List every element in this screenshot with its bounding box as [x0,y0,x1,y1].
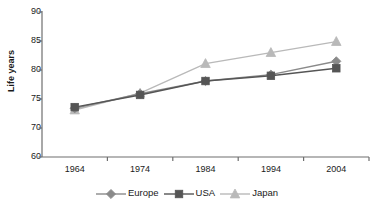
chart-legend: EuropeUSAJapan [0,183,375,201]
x-axis-tick-label: 1984 [174,164,238,174]
diamond-marker-icon [96,186,126,198]
square-marker-icon [164,186,194,198]
x-axis-tick-label: 1994 [239,164,303,174]
legend-label: USA [194,187,217,198]
life-expectancy-line-chart: Life years 908580757060 1964197419841994… [0,0,375,206]
x-axis-tick-label: 2004 [304,164,368,174]
series-line [75,68,337,107]
square-marker-icon [333,65,341,73]
triangle-marker-icon [220,186,250,198]
x-axis-tick-label: 1974 [108,164,172,174]
square-marker-icon [71,103,79,111]
series-japan [70,37,341,114]
square-marker-icon [202,77,210,85]
legend-item-europe[interactable]: Europe [96,186,160,198]
series-usa [71,65,340,111]
square-marker-icon [136,91,144,99]
legend-item-japan[interactable]: Japan [220,186,279,198]
legend-label: Europe [126,187,160,198]
legend-label: Japan [250,187,279,198]
square-marker-icon [175,190,183,198]
x-axis-tick-labels: 19641974198419942004 [47,164,369,178]
x-axis-tick-label: 1964 [43,164,107,174]
diamond-marker-icon [106,189,115,198]
triangle-marker-icon [332,37,342,46]
square-marker-icon [267,72,275,80]
legend-item-usa[interactable]: USA [164,186,217,198]
